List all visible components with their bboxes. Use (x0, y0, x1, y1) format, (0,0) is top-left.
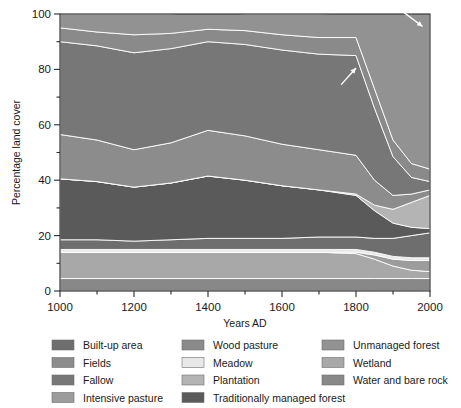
legend-swatch-wood-pasture (182, 340, 204, 350)
legend: Built-up areaFieldsFallowIntensive pastu… (52, 339, 448, 404)
legend-label-water-and-bare-rock: Water and bare rock (353, 374, 448, 386)
legend-swatch-fields (52, 358, 74, 368)
legend-label-wood-pasture: Wood pasture (213, 339, 278, 351)
legend-swatch-meadow (182, 358, 204, 368)
y-tick-label-80: 80 (38, 63, 51, 75)
legend-label-intensive-pasture: Intensive pasture (83, 392, 163, 404)
legend-label-built-up-area: Built-up area (83, 339, 143, 351)
y-tick-label-20: 20 (38, 230, 51, 242)
y-tick-label-60: 60 (38, 119, 51, 131)
x-tick-label-1600: 1600 (269, 301, 295, 313)
legend-label-meadow: Meadow (213, 357, 253, 369)
legend-label-fallow: Fallow (83, 374, 114, 386)
legend-label-unmanaged-forest: Unmanaged forest (353, 339, 439, 351)
legend-swatch-built-up-area (52, 340, 74, 350)
area-band-water-and-bare-rock (60, 279, 430, 291)
x-tick-label-1000: 1000 (47, 301, 73, 313)
legend-label-traditionally-managed-forest: Traditionally managed forest (213, 392, 345, 404)
figure-container: 020406080100100012001400160018002000Year… (0, 0, 461, 408)
land-cover-stacked-area-chart: 020406080100100012001400160018002000Year… (0, 0, 461, 408)
x-tick-label-1200: 1200 (121, 301, 147, 313)
legend-swatch-fallow (52, 375, 74, 385)
legend-swatch-plantation (182, 375, 204, 385)
legend-label-wetland: Wetland (353, 357, 391, 369)
x-axis-label: Years AD (223, 317, 267, 329)
y-axis-label: Percentage land cover (10, 99, 22, 205)
x-tick-label-1400: 1400 (195, 301, 221, 313)
legend-swatch-intensive-pasture (52, 393, 74, 403)
y-tick-label-0: 0 (45, 285, 51, 297)
legend-label-fields: Fields (83, 357, 111, 369)
legend-swatch-wetland (322, 358, 344, 368)
legend-swatch-unmanaged-forest (322, 340, 344, 350)
legend-swatch-traditionally-managed-forest (182, 393, 204, 403)
y-tick-label-40: 40 (38, 174, 51, 186)
x-tick-label-1800: 1800 (343, 301, 369, 313)
area-layers (60, 2, 430, 291)
x-tick-label-2000: 2000 (417, 301, 443, 313)
y-tick-label-100: 100 (32, 8, 51, 20)
legend-label-plantation: Plantation (213, 374, 260, 386)
legend-swatch-water-and-bare-rock (322, 375, 344, 385)
